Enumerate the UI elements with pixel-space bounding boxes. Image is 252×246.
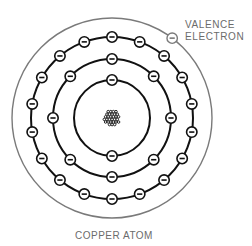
electron — [159, 51, 169, 61]
electron — [187, 99, 197, 109]
nucleon — [116, 118, 119, 121]
nucleon — [112, 110, 115, 113]
nucleon — [104, 121, 107, 124]
nucleon — [108, 113, 111, 116]
nucleon — [115, 121, 118, 124]
valence-electron-label: VALENCE ELECTRON — [185, 19, 244, 43]
nucleon — [108, 118, 111, 121]
nucleon — [104, 116, 107, 119]
electron — [65, 71, 75, 81]
nucleon — [108, 123, 111, 126]
nucleon — [115, 110, 118, 113]
electron — [79, 37, 89, 47]
nucleon — [111, 113, 114, 116]
nucleon — [110, 121, 113, 124]
electron — [166, 113, 176, 123]
nucleon — [107, 121, 110, 124]
nucleon — [116, 113, 119, 116]
nucleon — [117, 116, 120, 119]
electron — [135, 189, 145, 199]
electron — [107, 194, 117, 204]
electron — [159, 175, 169, 185]
electron — [107, 172, 117, 182]
electron — [177, 153, 187, 163]
nucleon — [110, 110, 113, 113]
nucleon — [113, 113, 116, 116]
valence-label-line1: VALENCE — [185, 19, 244, 31]
nucleon — [112, 116, 115, 119]
nucleus — [103, 110, 120, 126]
electron — [27, 99, 37, 109]
nucleon — [113, 123, 116, 126]
electron — [107, 75, 117, 85]
nucleon — [106, 113, 109, 116]
electron — [55, 51, 65, 61]
electron — [107, 151, 117, 161]
electron — [107, 32, 117, 42]
electron — [48, 113, 58, 123]
nucleon — [115, 116, 118, 119]
nucleon — [110, 116, 113, 119]
nucleon — [111, 118, 114, 121]
electron — [107, 54, 117, 64]
electron — [135, 37, 145, 47]
nucleon — [113, 118, 116, 121]
electron — [37, 153, 47, 163]
nucleon — [103, 118, 106, 121]
valence-label-line2: ELECTRON — [185, 31, 244, 43]
electron — [37, 72, 47, 82]
electron — [149, 155, 159, 165]
electron — [187, 127, 197, 137]
nucleon — [107, 110, 110, 113]
nucleon — [111, 123, 114, 126]
nucleon — [117, 121, 120, 124]
electron — [55, 175, 65, 185]
electron — [65, 155, 75, 165]
nucleon — [106, 118, 109, 121]
nucleon — [107, 116, 110, 119]
electron — [149, 71, 159, 81]
nucleon — [112, 121, 115, 124]
electron — [79, 189, 89, 199]
electron — [27, 127, 37, 137]
electron — [177, 72, 187, 82]
diagram-caption: COPPER ATOM — [0, 230, 228, 242]
valence-electron — [167, 33, 177, 43]
